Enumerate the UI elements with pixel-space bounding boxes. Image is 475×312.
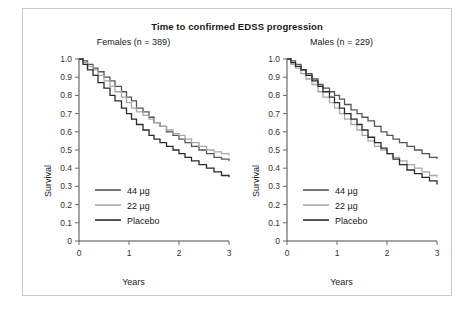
y-tick-label: 0.6 [268, 127, 280, 137]
y-tick-label: 1.0 [60, 54, 72, 64]
y-tick-label: 0.3 [60, 181, 72, 191]
y-tick-label: 0.1 [60, 218, 72, 228]
km-curve-44-µg [287, 59, 437, 159]
y-tick-label: 0 [67, 236, 72, 246]
x-tick-label: 3 [227, 248, 232, 258]
y-tick-label: 0.5 [60, 145, 72, 155]
y-tick-label: 0.3 [268, 181, 280, 191]
plot-females: 00.10.20.30.40.50.60.70.80.91.0012344 µg… [31, 51, 236, 269]
y-tick-label: 1.0 [268, 54, 280, 64]
figure-frame: Time to confirmed EDSS progression Femal… [22, 8, 452, 296]
y-tick-label: 0.2 [268, 200, 280, 210]
y-tick-label: 0 [275, 236, 280, 246]
y-tick-label: 0.9 [268, 72, 280, 82]
y-tick-label: 0.2 [60, 200, 72, 210]
panel-males-subtitle: Males (n = 229) [239, 37, 444, 47]
x-axis-label-females: Years [31, 277, 236, 287]
legend-label: 22 µg [335, 201, 358, 211]
plot-males: 00.10.20.30.40.50.60.70.80.91.0012344 µg… [239, 51, 444, 269]
x-tick-label: 2 [177, 248, 182, 258]
panel-males: Males (n = 229) Survival 00.10.20.30.40.… [239, 37, 444, 287]
y-tick-label: 0.8 [268, 90, 280, 100]
y-tick-label: 0.6 [60, 127, 72, 137]
legend-label: Placebo [335, 216, 368, 226]
x-axis-label-males: Years [239, 277, 444, 287]
x-tick-label: 0 [285, 248, 290, 258]
x-tick-label: 2 [385, 248, 390, 258]
legend-label: 44 µg [335, 186, 358, 196]
legend-label: Placebo [127, 216, 160, 226]
y-tick-label: 0.5 [268, 145, 280, 155]
x-tick-label: 3 [435, 248, 440, 258]
y-tick-label: 0.1 [268, 218, 280, 228]
y-tick-label: 0.4 [268, 163, 280, 173]
legend-label: 22 µg [127, 201, 150, 211]
y-tick-label: 0.7 [268, 109, 280, 119]
x-tick-label: 0 [77, 248, 82, 258]
panel-females: Females (n = 389) Survival 00.10.20.30.4… [31, 37, 236, 287]
x-tick-label: 1 [127, 248, 132, 258]
panel-females-subtitle: Females (n = 389) [31, 37, 236, 47]
km-curve-22-µg [287, 59, 437, 177]
km-curve-22-µg [79, 59, 229, 155]
legend-label: 44 µg [127, 186, 150, 196]
x-tick-label: 1 [335, 248, 340, 258]
y-tick-label: 0.9 [60, 72, 72, 82]
y-tick-label: 0.4 [60, 163, 72, 173]
km-curve-44-µg [79, 59, 229, 161]
chart-title: Time to confirmed EDSS progression [23, 21, 451, 32]
y-tick-label: 0.8 [60, 90, 72, 100]
y-tick-label: 0.7 [60, 109, 72, 119]
